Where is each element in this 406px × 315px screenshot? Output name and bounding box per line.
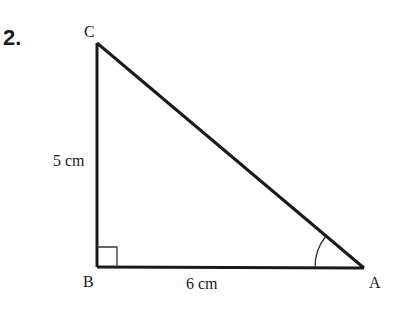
side-ba: [97, 267, 364, 268]
angle-arc-a: [315, 236, 326, 268]
side-ca-hypotenuse: [97, 43, 364, 268]
vertex-label-b: B: [83, 273, 94, 290]
right-triangle-figure: C B A 5 cm 6 cm: [0, 0, 406, 315]
side-label-ba: 6 cm: [186, 275, 218, 292]
vertex-label-c: C: [84, 23, 95, 40]
diagram-canvas: 2. C B A 5 cm 6 cm: [0, 0, 406, 315]
vertex-label-a: A: [369, 274, 381, 291]
side-label-bc: 5 cm: [53, 152, 85, 169]
right-angle-marker: [97, 247, 117, 267]
